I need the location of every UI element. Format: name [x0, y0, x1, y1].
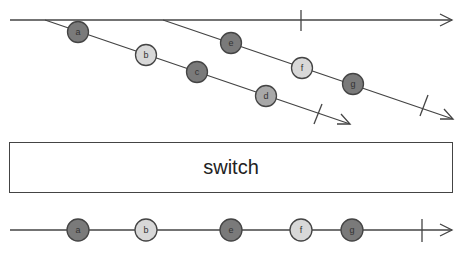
output-marble-e-label: e	[228, 225, 233, 235]
output-marble-g-label: g	[349, 225, 354, 235]
marble-c-label: c	[195, 67, 200, 77]
operator-box: switch	[9, 142, 453, 193]
arrow-head-icon	[440, 109, 453, 119]
output-marble-a-label: a	[75, 225, 80, 235]
marble-g-label: g	[350, 79, 355, 89]
marble-d-label: d	[263, 91, 268, 101]
marble-b-label: b	[143, 50, 148, 60]
marble-diagram: a b c d e f g a b e f g	[0, 0, 464, 255]
marble-a-label: a	[75, 27, 80, 37]
marble-e-label: e	[228, 38, 233, 48]
output-marble-b-label: b	[143, 225, 148, 235]
operator-label: switch	[203, 156, 259, 179]
completion-tick	[420, 95, 428, 116]
output-stream: a b e f g	[10, 219, 452, 242]
arrow-head-icon	[337, 114, 350, 124]
